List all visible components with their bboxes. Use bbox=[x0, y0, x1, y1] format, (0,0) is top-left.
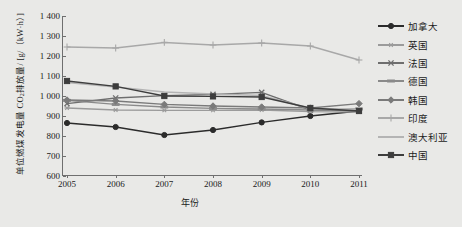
x-axis-tick-mark bbox=[67, 175, 68, 178]
y-axis-tick-mark bbox=[63, 136, 66, 137]
legend-label: 德国 bbox=[404, 74, 428, 88]
data-point bbox=[388, 24, 393, 29]
legend-marker-icon bbox=[378, 20, 404, 32]
x-axis-tick-label: 2010 bbox=[301, 179, 319, 189]
legend-marker-glyph bbox=[378, 112, 404, 124]
y-axis-tick-label: 800 bbox=[47, 131, 61, 141]
legend-marker-icon bbox=[378, 75, 404, 87]
legend-marker-glyph bbox=[378, 20, 404, 32]
legend: 加拿大英国法国德国韩国印度澳大利亚中国 bbox=[378, 17, 462, 164]
legend-line bbox=[378, 136, 404, 138]
y-axis-tick-mark bbox=[63, 16, 66, 17]
series-0 bbox=[64, 108, 361, 137]
y-axis-title-subscript: 2 bbox=[19, 93, 25, 96]
data-point bbox=[162, 132, 167, 137]
plot-area: 6007008009001 0001 1001 2001 3001 400200… bbox=[62, 16, 362, 176]
y-axis-tick-mark bbox=[63, 176, 66, 177]
legend-item-英国[interactable]: 英国 bbox=[378, 35, 462, 53]
legend-item-印度[interactable]: 印度 bbox=[378, 109, 462, 127]
y-axis-tick-label: 1 000 bbox=[40, 91, 60, 101]
legend-marker-glyph bbox=[378, 149, 404, 161]
x-axis-tick-label: 2011 bbox=[350, 179, 368, 189]
legend-marker-icon bbox=[378, 131, 404, 143]
x-axis-tick-label: 2008 bbox=[204, 179, 222, 189]
legend-marker-glyph bbox=[378, 39, 404, 51]
data-point bbox=[113, 124, 118, 129]
data-point bbox=[64, 78, 69, 83]
x-axis-tick-mark bbox=[262, 175, 263, 178]
legend-item-法国[interactable]: 法国 bbox=[378, 54, 462, 72]
data-point bbox=[210, 127, 215, 132]
legend-label: 英国 bbox=[404, 38, 428, 52]
legend-label: 中国 bbox=[404, 148, 428, 162]
x-axis-tick-label: 2006 bbox=[107, 179, 125, 189]
legend-marker-icon bbox=[378, 57, 404, 69]
legend-label: 韩国 bbox=[404, 93, 428, 107]
chart-figure: 单位燃煤发电量 CO2排放量/ [g/（kW·h）] 年份 6007008009… bbox=[0, 0, 462, 227]
y-axis-tick-mark bbox=[63, 96, 66, 97]
data-point bbox=[259, 94, 264, 99]
x-axis-title: 年份 bbox=[0, 196, 380, 209]
data-point bbox=[356, 108, 361, 113]
legend-item-中国[interactable]: 中国 bbox=[378, 146, 462, 164]
x-axis-tick-mark bbox=[213, 175, 214, 178]
y-axis-tick-mark bbox=[63, 116, 66, 117]
legend-marker-glyph bbox=[378, 94, 404, 106]
data-point bbox=[162, 93, 167, 98]
x-axis-tick-label: 2009 bbox=[253, 179, 271, 189]
x-axis-tick-mark bbox=[164, 175, 165, 178]
series-canvas bbox=[63, 16, 363, 176]
data-point bbox=[113, 84, 118, 89]
data-point bbox=[356, 100, 362, 106]
data-point bbox=[308, 105, 313, 110]
x-axis-tick-mark bbox=[310, 175, 311, 178]
legend-marker-icon bbox=[378, 149, 404, 161]
legend-label: 加拿大 bbox=[404, 19, 438, 33]
data-point bbox=[388, 152, 393, 157]
x-axis-tick-mark bbox=[359, 175, 360, 178]
legend-marker-icon bbox=[378, 112, 404, 124]
data-point bbox=[388, 80, 395, 82]
x-axis-tick-label: 2007 bbox=[155, 179, 173, 189]
y-axis-tick-label: 700 bbox=[47, 151, 61, 161]
data-point bbox=[210, 94, 215, 99]
legend-item-韩国[interactable]: 韩国 bbox=[378, 91, 462, 109]
legend-marker-glyph bbox=[378, 75, 404, 87]
y-axis-title-prefix: 单位燃煤发电量 CO bbox=[15, 96, 25, 175]
legend-item-加拿大[interactable]: 加拿大 bbox=[378, 17, 462, 35]
y-axis-title-suffix: 排放量/ [g/（kW·h）] bbox=[15, 13, 25, 93]
y-axis-tick-label: 900 bbox=[47, 111, 61, 121]
legend-marker-icon bbox=[378, 94, 404, 106]
data-point bbox=[388, 97, 394, 103]
legend-marker-glyph bbox=[378, 57, 404, 69]
y-axis-tick-mark bbox=[63, 76, 66, 77]
legend-item-德国[interactable]: 德国 bbox=[378, 72, 462, 90]
x-axis-tick-label: 2005 bbox=[58, 179, 76, 189]
y-axis-tick-mark bbox=[63, 56, 66, 57]
y-axis-title: 单位燃煤发电量 CO2排放量/ [g/（kW·h）] bbox=[13, 0, 25, 189]
data-point bbox=[64, 120, 69, 125]
y-axis-tick-label: 1 200 bbox=[40, 51, 60, 61]
y-axis-tick-label: 1 100 bbox=[40, 71, 60, 81]
legend-label: 澳大利亚 bbox=[404, 130, 448, 144]
y-axis-tick-mark bbox=[63, 156, 66, 157]
data-point bbox=[259, 120, 264, 125]
y-axis-tick-label: 1 300 bbox=[40, 31, 60, 41]
y-axis-tick-mark bbox=[63, 36, 66, 37]
legend-item-澳大利亚[interactable]: 澳大利亚 bbox=[378, 127, 462, 145]
x-axis-tick-mark bbox=[116, 175, 117, 178]
series-5 bbox=[64, 39, 363, 63]
legend-label: 印度 bbox=[404, 111, 428, 125]
y-axis-tick-label: 1 400 bbox=[40, 11, 60, 21]
legend-marker-icon bbox=[378, 39, 404, 51]
data-point bbox=[308, 113, 313, 118]
legend-label: 法国 bbox=[404, 56, 428, 70]
